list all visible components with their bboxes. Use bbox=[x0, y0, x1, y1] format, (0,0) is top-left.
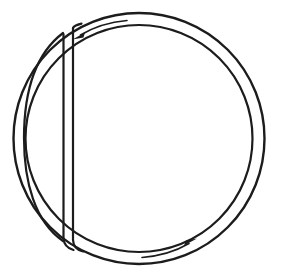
diagram-root bbox=[0, 0, 283, 278]
line-art-diagram bbox=[0, 0, 283, 278]
diagram-background bbox=[0, 0, 283, 278]
